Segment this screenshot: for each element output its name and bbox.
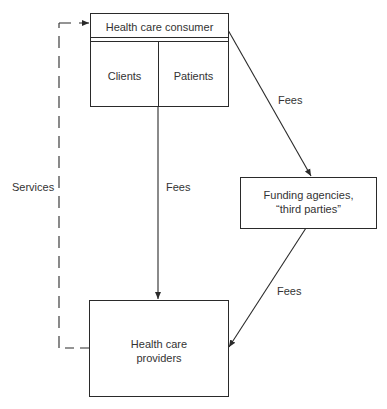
fees-label-vertical: Fees bbox=[166, 180, 190, 194]
clients-label: Clients bbox=[91, 69, 158, 83]
providers-label-line1: Health care bbox=[90, 337, 228, 351]
services-label: Services bbox=[12, 180, 54, 194]
consumer-node: Health care consumer Clients Patients bbox=[90, 13, 229, 107]
patients-label: Patients bbox=[159, 69, 228, 83]
funding-label-line1: Funding agencies, bbox=[241, 188, 376, 202]
fees-label-upper-diagonal: Fees bbox=[278, 93, 302, 107]
funding-label-line2: “third parties” bbox=[241, 202, 376, 216]
providers-node: Health care providers bbox=[89, 300, 229, 397]
funding-node: Funding agencies, “third parties” bbox=[240, 177, 377, 229]
title-divider bbox=[91, 37, 228, 42]
fees-label-lower-diagonal: Fees bbox=[277, 284, 301, 298]
consumer-title: Health care consumer bbox=[91, 20, 228, 34]
services-arrow bbox=[59, 23, 89, 348]
providers-label-line2: providers bbox=[90, 351, 228, 365]
